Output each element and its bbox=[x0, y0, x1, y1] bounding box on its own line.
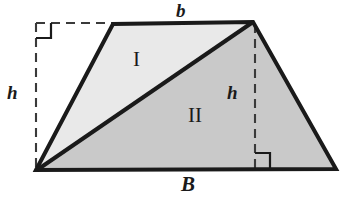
height-label-right: h bbox=[227, 83, 238, 102]
region-two-label: II bbox=[188, 105, 202, 126]
trapezoid-diagram-svg bbox=[0, 0, 342, 197]
geometry-figure: b B h h I II bbox=[0, 0, 342, 197]
height-label-left: h bbox=[7, 83, 18, 102]
top-base-label: b bbox=[176, 1, 186, 20]
region-one-label: I bbox=[133, 49, 140, 70]
right-angle-marker-top-left-icon bbox=[36, 23, 51, 38]
bottom-base-label: B bbox=[181, 174, 195, 195]
